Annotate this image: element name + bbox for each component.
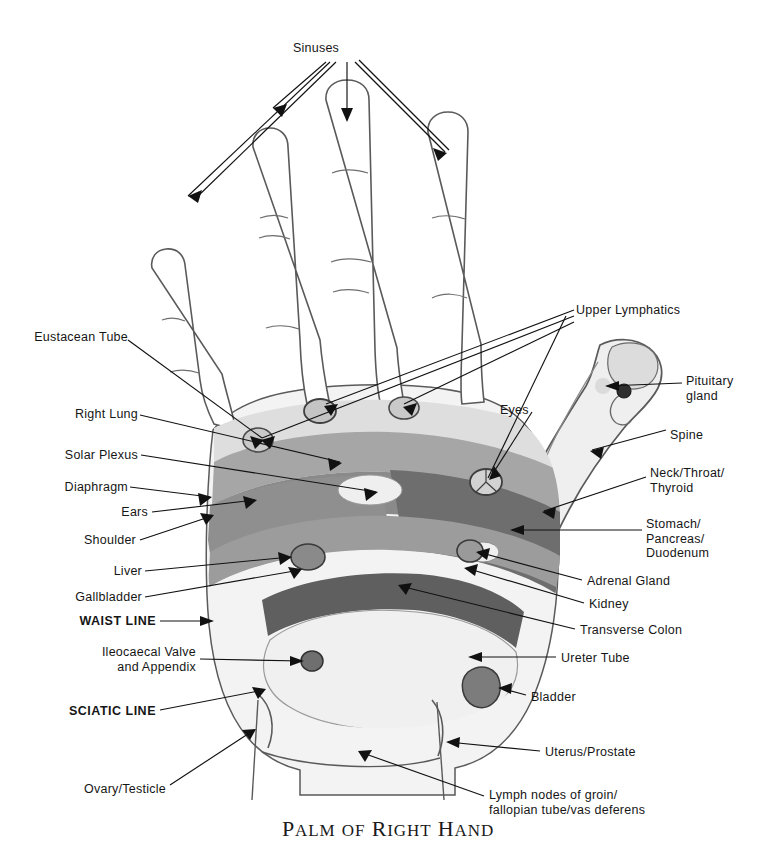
- label-upper-lymphatics: Upper Lymphatics: [576, 303, 680, 318]
- title-word-palm-rest: ALM: [295, 821, 335, 840]
- label-shoulder: Shoulder: [0, 533, 136, 548]
- leader-diaphragm: [130, 487, 210, 497]
- reflexology-chart: Sinuses Eustacean Tube Right Lung Solar …: [0, 0, 776, 865]
- label-ears: Ears: [0, 505, 148, 520]
- ileocaecal-point: [301, 651, 323, 671]
- finger-center: [326, 80, 404, 406]
- label-liver: Liver: [0, 564, 142, 579]
- liver-point: [291, 544, 325, 570]
- label-uterus-prostate: Uterus/Prostate: [545, 745, 636, 760]
- label-waist-line: WAIST LINE: [0, 614, 156, 629]
- label-eyes: Eyes: [500, 403, 529, 418]
- label-stomach-pancreas-duodenum: Stomach/ Pancreas/ Duodenum: [646, 517, 709, 561]
- label-eustacean-tube: Eustacean Tube: [0, 330, 128, 345]
- label-transverse-colon: Transverse Colon: [580, 623, 682, 638]
- title-word-hand-first: H: [438, 816, 455, 841]
- label-sinuses: Sinuses: [266, 41, 366, 56]
- label-ureter-tube: Ureter Tube: [561, 651, 630, 666]
- label-gallbladder: Gallbladder: [0, 590, 142, 605]
- label-sciatic-line: SCIATIC LINE: [0, 704, 156, 719]
- finger-center-crease3: [333, 290, 369, 293]
- title-word-of: OF: [342, 821, 366, 840]
- pituitary-point: [617, 384, 631, 398]
- finger-index: [152, 249, 236, 430]
- label-ileocaecal-valve: Ileocaecal Valve and Appendix: [0, 645, 196, 674]
- label-bladder: Bladder: [531, 690, 576, 705]
- finger-center-crease2: [331, 259, 371, 262]
- leader-shoulder: [140, 516, 212, 540]
- leader-eustacean-tube: [128, 340, 262, 438]
- hand-outline-group: [152, 80, 662, 800]
- label-ovary-testicle: Ovary/Testicle: [0, 782, 166, 797]
- label-spine: Spine: [670, 428, 703, 443]
- sinus-arrowheads: [188, 104, 447, 203]
- hand-diagram: [0, 0, 776, 865]
- title-word-hand-rest: AND: [455, 821, 494, 840]
- title-word-right-rest: IGHT: [387, 821, 431, 840]
- label-lymph-nodes-groin: Lymph nodes of groin/ fallopian tube/vas…: [489, 788, 645, 817]
- leader-ovary: [170, 730, 254, 785]
- label-pituitary-gland: Pituitary gland: [686, 374, 733, 403]
- finger-index-crease: [162, 318, 185, 321]
- title-word-palm-first: P: [282, 816, 295, 841]
- label-diaphragm: Diaphragm: [0, 480, 128, 495]
- finger-index-crease2: [170, 370, 199, 373]
- leader-sinuses: [188, 60, 449, 198]
- label-right-lung: Right Lung: [0, 407, 138, 422]
- thumb-nail: [608, 343, 658, 389]
- title-word-right-first: R: [372, 816, 388, 841]
- label-kidney: Kidney: [589, 597, 629, 612]
- label-adrenal-gland: Adrenal Gland: [587, 574, 670, 589]
- label-neck-throat-thyroid: Neck/Throat/ Thyroid: [650, 466, 725, 495]
- adrenal-point: [457, 540, 483, 562]
- finger-right-crease2: [432, 294, 467, 298]
- finger-middle-left: [253, 128, 330, 406]
- figure-title: PALM OF RIGHT HAND: [0, 816, 776, 842]
- bladder-point: [462, 667, 500, 707]
- finger-ml-crease3: [266, 326, 299, 329]
- label-solar-plexus: Solar Plexus: [0, 448, 138, 463]
